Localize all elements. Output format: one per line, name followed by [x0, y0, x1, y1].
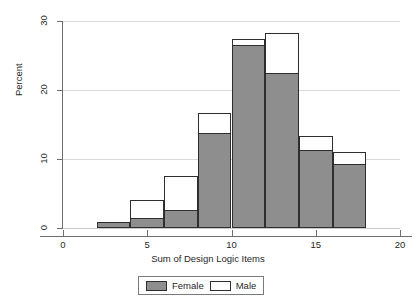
x-tick-label-5: 5 — [134, 239, 160, 250]
y-tick-label-0: 0 — [38, 219, 49, 237]
x-tick-label-0: 0 — [50, 239, 76, 250]
y-axis-title: Percent — [13, 63, 24, 96]
bar-female-4-6 — [130, 218, 164, 228]
y-tick-10 — [57, 159, 62, 160]
x-tick-label-15: 15 — [303, 239, 329, 250]
histogram-chart: Percent 0102030 05101520 Sum of Design L… — [0, 0, 416, 302]
bar-female-8-10 — [198, 133, 232, 228]
x-tick-0 — [63, 230, 64, 236]
x-tick-5 — [147, 230, 148, 236]
bar-female-6-8 — [164, 210, 198, 228]
y-tick-label-10: 10 — [38, 150, 49, 168]
y-tick-20 — [57, 90, 62, 91]
x-axis-spine — [40, 236, 412, 237]
y-tick-30 — [57, 21, 62, 22]
y-tick-label-30: 30 — [38, 12, 49, 30]
y-tick-label-20: 20 — [38, 81, 49, 99]
bars-container — [63, 21, 400, 228]
x-tick-15 — [316, 230, 317, 236]
legend-label-female: Female — [172, 280, 204, 291]
bar-female-10-12 — [232, 45, 266, 228]
bar-female-16-18 — [333, 164, 367, 228]
x-tick-10 — [232, 230, 233, 236]
bar-female-12-14 — [265, 73, 299, 228]
bar-female-2-4 — [97, 222, 131, 228]
legend-item-male: Male — [210, 280, 257, 291]
legend-swatch-female-icon — [146, 281, 167, 291]
y-tick-0 — [57, 228, 62, 229]
legend-swatch-male-icon — [210, 281, 231, 291]
legend: Female Male — [138, 276, 264, 295]
x-tick-20 — [400, 230, 401, 236]
gridline-y-0 — [63, 228, 400, 229]
legend-label-male: Male — [236, 280, 257, 291]
bar-female-14-16 — [299, 150, 333, 228]
legend-item-female: Female — [146, 280, 204, 291]
x-tick-label-20: 20 — [387, 239, 413, 250]
x-tick-label-10: 10 — [219, 239, 245, 250]
x-axis-title: Sum of Design Logic Items — [0, 253, 416, 264]
